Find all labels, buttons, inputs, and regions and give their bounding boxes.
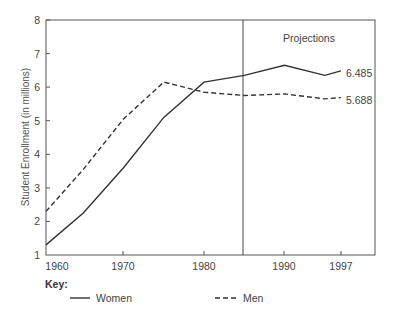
women-series-line [46,65,341,245]
plot-frame [46,20,375,255]
y-axis: 8 7 6 5 4 3 2 1 [34,14,50,261]
legend-men-label: Men [243,292,264,304]
y-tick-8: 8 [34,14,40,26]
y-tick-4: 4 [34,148,40,160]
x-tick-1990: 1990 [272,260,296,272]
legend-women-label: Women [96,292,132,304]
x-tick-1960: 1960 [45,260,69,272]
men-series-line [46,82,341,211]
women-end-label: 6.485 [346,67,372,79]
x-axis: 1960 1970 1980 1990 1997 [45,251,353,272]
men-end-label: 5.688 [346,94,372,106]
x-tick-1970: 1970 [111,260,135,272]
y-tick-2: 2 [34,215,40,227]
projections-label: Projections [283,32,335,44]
x-tick-1997: 1997 [329,260,353,272]
key-title: Key: [45,278,68,290]
y-tick-5: 5 [34,115,40,127]
y-tick-7: 7 [34,48,40,60]
enrollment-chart: 8 7 6 5 4 3 2 1 Student Enrollment (in m… [0,0,395,320]
x-tick-1980: 1980 [192,260,216,272]
y-tick-1: 1 [34,249,40,261]
y-tick-6: 6 [34,81,40,93]
y-axis-title: Student Enrollment (in millions) [20,68,31,206]
y-tick-3: 3 [34,182,40,194]
